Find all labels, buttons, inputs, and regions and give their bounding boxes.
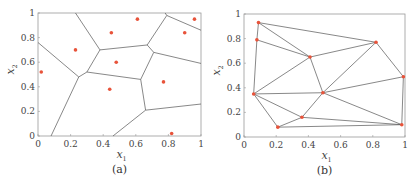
delaunay-edge (310, 42, 376, 57)
panel-a-voronoi: 00.20.40.60.8100.20.40.60.81x1x2(a) (4, 8, 204, 176)
delaunay-edge (258, 23, 310, 57)
delaunay-edge (278, 117, 302, 127)
figure: 00.20.40.60.8100.20.40.60.81x1x2(a)00.20… (0, 0, 420, 184)
data-point (110, 31, 114, 35)
y-tick-label: 0.2 (227, 107, 241, 117)
delaunay-edge (278, 125, 402, 127)
data-point (400, 123, 404, 127)
svg-text:2: 2 (217, 65, 225, 69)
delaunay-edge (310, 57, 323, 93)
delaunay-edge (254, 94, 278, 127)
data-point (308, 55, 312, 59)
panel-caption: (a) (112, 163, 127, 176)
axes-frame (244, 14, 405, 137)
delaunay-edge (254, 93, 323, 94)
panel-caption: (b) (317, 164, 333, 177)
delaunay-edge (254, 40, 257, 94)
y-tick-label: 0.6 (227, 58, 242, 68)
data-point (162, 80, 166, 84)
delaunay-edge (257, 23, 259, 40)
voronoi-edge (113, 110, 146, 136)
svg-text:1: 1 (328, 156, 332, 164)
y-tick-label: 0.8 (227, 34, 242, 44)
data-point (114, 60, 118, 64)
delaunay-edge (402, 77, 404, 125)
y-tick-label: 0.4 (227, 83, 242, 93)
x-tick-label: 1 (198, 139, 204, 149)
svg-text:2: 2 (11, 64, 19, 68)
data-point (321, 91, 325, 95)
data-point (170, 132, 174, 136)
data-point (108, 87, 112, 91)
voronoi-edge (100, 45, 147, 50)
y-tick-label: 1 (235, 9, 241, 19)
voronoi-edge (146, 104, 201, 110)
svg-text:1: 1 (123, 155, 127, 163)
y-tick-label: 0.2 (21, 106, 35, 116)
x-tick-label: 0 (241, 140, 247, 150)
x-tick-label: 0.8 (366, 140, 381, 150)
voronoi-edge (154, 52, 201, 63)
delaunay-edge (257, 40, 310, 57)
delaunay-edge (258, 23, 376, 43)
data-point (183, 31, 187, 35)
x-tick-label: 0 (35, 139, 41, 149)
voronoi-edge (87, 72, 141, 79)
voronoi-edge (87, 50, 100, 72)
axes-frame (38, 13, 201, 136)
data-point (74, 48, 78, 52)
x-tick-label: 0.8 (161, 139, 176, 149)
delaunay-edge (376, 42, 403, 76)
voronoi-edge (141, 52, 154, 79)
voronoi-edge (79, 72, 87, 77)
data-point (300, 116, 304, 120)
delaunay-edge (302, 93, 323, 118)
delaunay-edge (323, 42, 376, 92)
x-tick-label: 0.2 (63, 139, 77, 149)
y-tick-label: 0.8 (21, 33, 36, 43)
delaunay-edge (254, 94, 302, 117)
data-point (374, 40, 378, 44)
voronoi-edge (147, 15, 167, 45)
voronoi-edge (147, 45, 154, 52)
data-point (255, 38, 259, 42)
y-tick-label: 0.4 (21, 82, 36, 92)
x-tick-label: 0.4 (96, 139, 111, 149)
voronoi-edge (75, 13, 99, 50)
x-tick-label: 0.2 (269, 140, 283, 150)
panel-b-delaunay: 00.20.40.60.8100.20.40.60.81x1x2(b) (210, 9, 408, 177)
x-tick-label: 1 (402, 140, 408, 150)
voronoi-edge (51, 77, 79, 136)
data-point (276, 125, 280, 129)
voronoi-edge (38, 43, 79, 77)
y-tick-label: 0 (29, 131, 35, 141)
y-tick-label: 0 (235, 132, 241, 142)
y-tick-label: 0.6 (21, 57, 36, 67)
data-point (136, 17, 140, 21)
data-point (193, 17, 197, 21)
data-point (402, 75, 406, 79)
voronoi-edge (167, 15, 201, 30)
data-point (39, 70, 43, 74)
x-tick-label: 0.4 (301, 140, 316, 150)
data-point (257, 21, 261, 25)
x-tick-label: 0.6 (129, 139, 144, 149)
x-tick-label: 0.6 (333, 140, 348, 150)
delaunay-edge (323, 77, 404, 93)
delaunay-edge (254, 57, 310, 94)
voronoi-edge (141, 79, 146, 110)
y-tick-label: 1 (29, 8, 35, 18)
data-point (252, 92, 256, 96)
